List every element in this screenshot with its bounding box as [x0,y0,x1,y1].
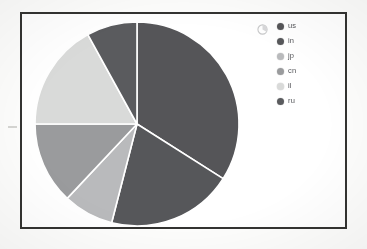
legend-item-ru[interactable]: ru [277,95,335,107]
legend-item-cn[interactable]: cn [277,65,335,77]
legend-swatch-ru [277,98,284,105]
legend-label-il: il [288,80,292,92]
legend-swatch-cn [277,68,284,75]
pie-glyph-icon [257,21,268,32]
legend-item-il[interactable]: il [277,80,335,92]
legend-label-in: in [288,35,294,47]
legend-swatch-il [277,83,284,90]
chart-panel: us in jp cn il ru [20,12,347,229]
scan-artifact-mark [8,126,17,128]
legend-swatch-us [277,23,284,30]
legend-swatch-jp [277,53,284,60]
legend-item-in[interactable]: in [277,35,335,47]
legend-label-ru: ru [288,95,295,107]
legend-label-us: us [288,20,296,32]
legend-swatch-in [277,38,284,45]
legend-item-us[interactable]: us [277,20,335,32]
legend-label-cn: cn [288,65,296,77]
page-root: us in jp cn il ru [0,0,367,249]
chart-legend: us in jp cn il ru [277,18,335,107]
legend-label-jp: jp [288,50,294,62]
legend-item-jp[interactable]: jp [277,50,335,62]
